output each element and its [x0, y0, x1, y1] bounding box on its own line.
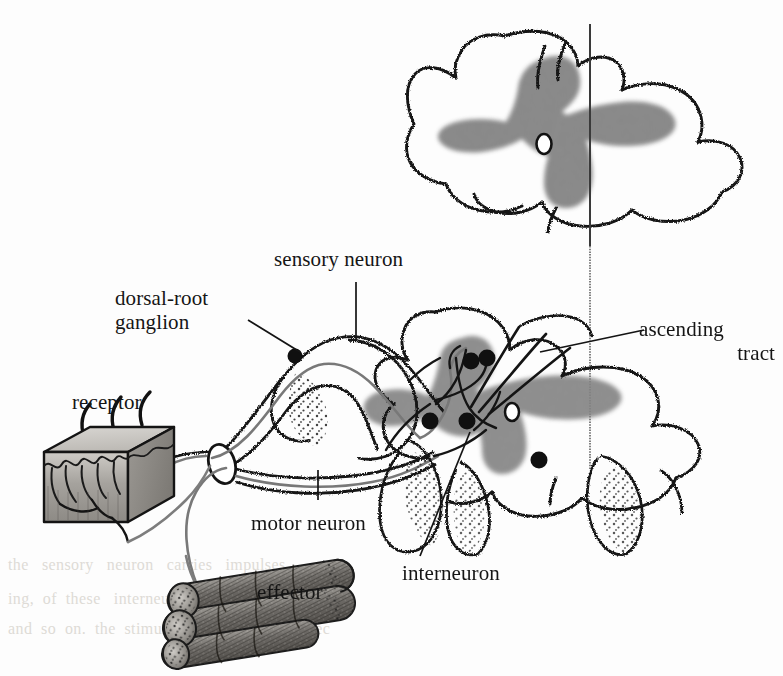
label-effector: effector [257, 581, 323, 605]
upper-cord-section [407, 24, 742, 246]
ganglion-stipple [289, 372, 328, 448]
label-motor-neuron: motor neuron [251, 512, 366, 536]
label-ascending-tract-line2: tract [639, 342, 783, 366]
synapse-dot [463, 353, 480, 370]
label-receptor: receptor [72, 391, 142, 415]
synapse-dot [422, 413, 439, 430]
label-dorsal-root-ganglion-line2: ganglion [115, 311, 208, 335]
label-ascending-tract: ascending tract [639, 318, 775, 365]
synapse-dot [479, 350, 496, 367]
upper-central-canal [537, 134, 552, 154]
label-dorsal-root-ganglion: dorsal-root ganglion [115, 287, 208, 334]
leader-dorsal-root-ganglion [248, 320, 300, 352]
label-sensory-neuron: sensory neuron [274, 248, 403, 272]
synapse-dot [459, 413, 476, 430]
effector-muscle [151, 556, 364, 673]
label-dorsal-root-ganglion-line1: dorsal-root [115, 287, 208, 311]
synapse-dot [531, 452, 548, 469]
label-interneuron: interneuron [402, 562, 500, 586]
figure-canvas: the sensory neuron carries impulses ing,… [0, 0, 783, 676]
label-ascending-tract-line1: ascending [639, 318, 775, 342]
lower-central-canal [505, 403, 519, 421]
ganglion-cell-body [288, 349, 303, 364]
